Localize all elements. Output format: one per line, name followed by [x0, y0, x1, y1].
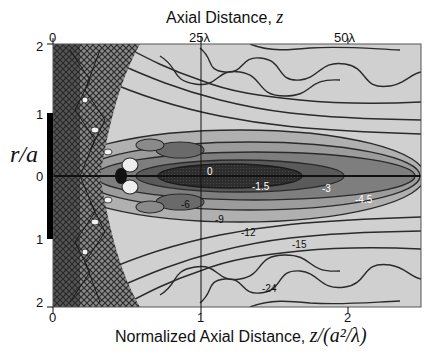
contour-label-9: -9 — [215, 214, 224, 225]
contour-label-1-5: -1.5 — [252, 181, 270, 192]
contour-plot: 0 -1.5 -3 -4.5 -6 -9 -12 -15 -24 — [0, 0, 439, 362]
contour-label-12: -12 — [241, 227, 256, 238]
contour-label-4-5: -4.5 — [355, 194, 373, 205]
contour-label-3: -3 — [322, 183, 331, 194]
aperture-bar — [47, 113, 53, 239]
contour-label-6: -6 — [181, 199, 190, 210]
contour-label-0: 0 — [207, 166, 213, 177]
contour-label-24: -24 — [262, 283, 277, 294]
contour-label-15: -15 — [292, 239, 307, 250]
contour-fills — [53, 44, 425, 307]
